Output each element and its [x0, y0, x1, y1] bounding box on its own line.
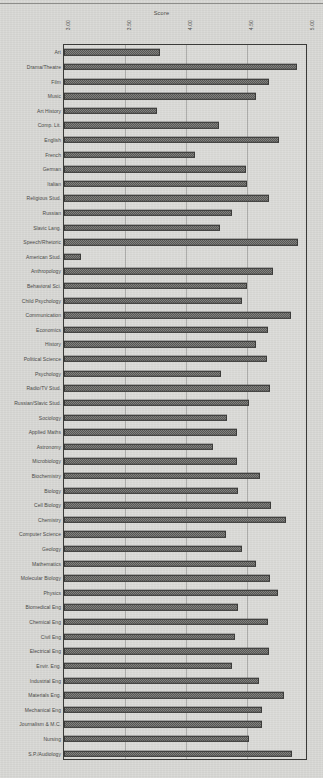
bar — [64, 487, 238, 493]
bar — [64, 312, 291, 318]
bar — [64, 517, 286, 523]
category-label: Chemical Eng — [29, 619, 61, 625]
bar-row: Electrical Eng — [64, 644, 306, 659]
bar — [64, 648, 269, 654]
category-label: Mechanical Eng — [25, 707, 61, 713]
bar-row: Cell Biology — [64, 498, 306, 513]
bar — [64, 677, 259, 683]
bar — [64, 721, 262, 727]
category-label: Physics — [43, 590, 61, 596]
bar — [64, 166, 246, 172]
bar — [64, 604, 238, 610]
bar — [64, 341, 256, 347]
bar-row: Physics — [64, 586, 306, 601]
category-label: Nursing — [43, 736, 61, 742]
bar — [64, 444, 213, 450]
category-label: Geology — [42, 546, 61, 552]
bar-row: Russian/Slavic Stud. — [64, 396, 306, 411]
bar-row: Chemical Eng — [64, 615, 306, 630]
bar-row: Mathematics — [64, 556, 306, 571]
bar-row: Computer Science — [64, 527, 306, 542]
category-label: Russian — [43, 210, 61, 216]
bar-row: Film — [64, 74, 306, 89]
bar-row: S.P./Audiology — [64, 746, 306, 761]
bar — [64, 750, 292, 756]
category-label: Child Psychology — [22, 298, 61, 304]
bar — [64, 181, 247, 187]
category-label: Electrical Eng — [30, 648, 61, 654]
bar — [64, 64, 297, 70]
bar — [64, 502, 271, 508]
bar-row: Chemistry — [64, 513, 306, 528]
bar — [64, 371, 221, 377]
category-label: Psychology — [35, 371, 61, 377]
x-axis-title: Score — [0, 10, 323, 16]
bar-row: Microbiology — [64, 454, 306, 469]
bar-row: German — [64, 162, 306, 177]
bar — [64, 151, 195, 157]
category-label: Italian — [47, 181, 61, 187]
category-label: Journalism & M.C. — [19, 721, 61, 727]
category-label: Religious Stud. — [27, 195, 61, 201]
bar-row: American Stud. — [64, 250, 306, 265]
bar-row: Biology — [64, 483, 306, 498]
bar — [64, 108, 157, 114]
bar-row: History — [64, 337, 306, 352]
bar — [64, 400, 249, 406]
category-label: Civil Eng — [41, 634, 61, 640]
category-label: Russian/Slavic Stud. — [14, 400, 61, 406]
bar — [64, 224, 220, 230]
bar — [64, 254, 81, 260]
category-label: Art History — [37, 108, 61, 114]
bar — [64, 414, 227, 420]
bar-row: Astronomy — [64, 439, 306, 454]
bar — [64, 429, 237, 435]
bar-row: Religious Stud. — [64, 191, 306, 206]
bar — [64, 458, 237, 464]
category-label: Materials Eng. — [28, 692, 61, 698]
bar — [64, 663, 232, 669]
category-label: English — [44, 137, 61, 143]
category-label: S.P./Audiology — [28, 751, 61, 757]
bar-row: Nursing — [64, 732, 306, 747]
bar-row: Music — [64, 89, 306, 104]
bar — [64, 356, 267, 362]
bar-row: Molecular Biology — [64, 571, 306, 586]
bar-row: Slavic Lang. — [64, 220, 306, 235]
bar-row: Geology — [64, 542, 306, 557]
bar — [64, 283, 247, 289]
bar-row: Applied Maths — [64, 425, 306, 440]
bar-row: Mechanical Eng — [64, 702, 306, 717]
bar-row: Journalism & M.C. — [64, 717, 306, 732]
category-label: American Stud. — [26, 254, 61, 260]
bar — [64, 78, 269, 84]
category-label: Biology — [44, 488, 61, 494]
bar — [64, 122, 219, 128]
bar-row: Art History — [64, 103, 306, 118]
category-label: Music — [48, 93, 61, 99]
bar — [64, 560, 256, 566]
bar-row: Child Psychology — [64, 293, 306, 308]
bar-row: Communication — [64, 308, 306, 323]
bar-row: Radio/TV Stud. — [64, 381, 306, 396]
category-label: Comp. Lit. — [38, 122, 61, 128]
category-label: Political Science — [24, 356, 61, 362]
bar-row: Sociology — [64, 410, 306, 425]
bar-row: Political Science — [64, 352, 306, 367]
category-label: Film — [51, 79, 61, 85]
category-label: Biochemistry — [32, 473, 61, 479]
bar — [64, 137, 279, 143]
bar-row: Industrial Eng — [64, 673, 306, 688]
category-label: Astronomy — [37, 444, 61, 450]
x-tick-label: 4.50 — [248, 20, 254, 30]
bar-row: Drama/Theatre — [64, 60, 306, 75]
bar-row: Civil Eng — [64, 629, 306, 644]
x-tick-label: 3.50 — [126, 20, 132, 30]
bar-row: Italian — [64, 176, 306, 191]
x-tick-label: 4.00 — [187, 20, 193, 30]
bar — [64, 633, 235, 639]
category-label: French — [45, 152, 61, 158]
bar-row: Biochemistry — [64, 469, 306, 484]
category-label: Radio/TV Stud. — [26, 385, 61, 391]
bar-row: English — [64, 133, 306, 148]
